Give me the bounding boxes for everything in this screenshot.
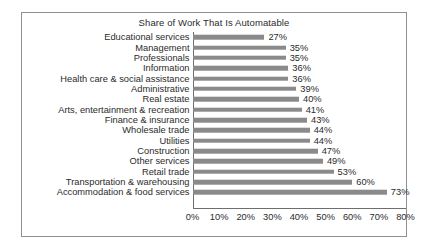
bar-value-label: 53% (338, 167, 357, 177)
bar-row: Management35% (22, 42, 406, 52)
bar (193, 149, 318, 154)
chart-container: Share of Work That Is Automatable Educat… (21, 12, 407, 237)
bar-value-label: 36% (292, 63, 311, 73)
plot-area: Educational services27%Management35%Prof… (22, 32, 406, 236)
bar (193, 138, 310, 143)
bar (193, 97, 300, 102)
x-tick-label: 70% (370, 211, 389, 223)
category-label: Construction (137, 146, 192, 156)
bar-value-label: 41% (306, 105, 325, 115)
category-label: Information (143, 63, 193, 73)
bar (193, 56, 286, 61)
category-label: Accommodation & food services (57, 187, 193, 197)
bar (193, 107, 302, 112)
x-tick-label: 80% (396, 211, 415, 223)
category-label: Wholesale trade (122, 125, 192, 135)
bar-value-label: 44% (314, 136, 333, 146)
bar (193, 169, 334, 174)
bar-row: Real estate40% (22, 94, 406, 104)
chart-title: Share of Work That Is Automatable (22, 17, 406, 28)
bar-track: 39% (193, 84, 407, 94)
bar (193, 190, 387, 195)
x-tick-label: 20% (236, 211, 255, 223)
bar-row: Transportation & warehousing60% (22, 177, 406, 187)
bar (193, 128, 310, 133)
bar-value-label: 39% (300, 84, 319, 94)
bar-row: Other services49% (22, 156, 406, 166)
category-label: Health care & social assistance (60, 74, 192, 84)
bar-track: 43% (193, 115, 407, 125)
bar-track: 36% (193, 73, 407, 83)
bar-value-label: 40% (303, 94, 322, 104)
bar-value-label: 27% (268, 32, 287, 42)
x-tick-label: 30% (263, 211, 282, 223)
bar-value-label: 43% (311, 115, 330, 125)
bar (193, 76, 289, 81)
bar-track: 47% (193, 146, 407, 156)
bar-value-label: 35% (290, 53, 309, 63)
category-label: Administrative (131, 84, 192, 94)
bar (193, 45, 286, 50)
bar-value-label: 73% (391, 187, 410, 197)
bar-track: 35% (193, 53, 407, 63)
bar (193, 87, 297, 92)
bar-row: Finance & insurance43% (22, 115, 406, 125)
category-label: Retail trade (142, 167, 193, 177)
bar-track: 73% (193, 187, 407, 197)
bar-row: Accommodation & food services73% (22, 187, 406, 197)
bar-track: 49% (193, 156, 407, 166)
bar (193, 118, 307, 123)
x-axis: 0%10%20%30%40%50%60%70%80% (22, 211, 406, 225)
bar-row: Wholesale trade44% (22, 125, 406, 135)
bar-value-label: 49% (327, 156, 346, 166)
bar-row: Administrative39% (22, 84, 406, 94)
bar-value-label: 35% (290, 43, 309, 53)
bar (193, 35, 265, 40)
bar-track: 35% (193, 42, 407, 52)
bar-value-label: 44% (314, 125, 333, 135)
category-label: Educational services (104, 32, 192, 42)
x-tick-label: 10% (210, 211, 229, 223)
bar-track: 41% (193, 104, 407, 114)
bar-track: 44% (193, 125, 407, 135)
bar-track: 60% (193, 177, 407, 187)
x-tick-label: 40% (290, 211, 309, 223)
category-label: Transportation & warehousing (66, 177, 193, 187)
category-label: Real estate (142, 94, 192, 104)
bar-track: 27% (193, 32, 407, 42)
bar-track: 44% (193, 135, 407, 145)
bar-row: Retail trade53% (22, 166, 406, 176)
x-tick-label: 60% (343, 211, 362, 223)
x-tick-label: 0% (186, 211, 199, 223)
bar-row: Construction47% (22, 146, 406, 156)
category-label: Other services (130, 156, 193, 166)
category-label: Management (135, 43, 192, 53)
bar-track: 40% (193, 94, 407, 104)
bar-row: Educational services27% (22, 32, 406, 42)
bar-value-label: 60% (356, 177, 375, 187)
bar-row: Health care & social assistance36% (22, 73, 406, 83)
bar-row: Arts, entertainment & recreation41% (22, 104, 406, 114)
bar-track: 36% (193, 63, 407, 73)
bar-row: Professionals35% (22, 53, 406, 63)
bar (193, 180, 353, 185)
category-label: Finance & insurance (105, 115, 193, 125)
bar-value-label: 36% (292, 74, 311, 84)
bar-value-label: 47% (322, 146, 341, 156)
category-label: Professionals (134, 53, 193, 63)
bar-row: Information36% (22, 63, 406, 73)
x-tick-label: 50% (316, 211, 335, 223)
category-label: Arts, entertainment & recreation (58, 105, 192, 115)
category-label: Utilities (160, 136, 193, 146)
bar (193, 66, 289, 71)
bar-track: 53% (193, 166, 407, 176)
bar (193, 159, 323, 164)
bar-row: Utilities44% (22, 135, 406, 145)
